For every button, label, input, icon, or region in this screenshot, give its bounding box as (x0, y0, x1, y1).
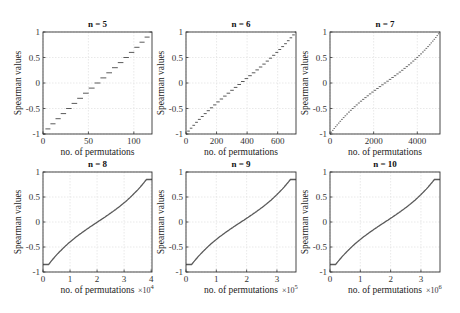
x-tick-label: 3 (419, 274, 424, 284)
x-tick-label: 3 (275, 274, 280, 284)
y-tick-label: 0 (179, 217, 184, 227)
subplot-title: n = 10 (373, 159, 397, 169)
y-axis-label: Spearman values (156, 50, 166, 115)
x-tick-label: 0 (41, 274, 46, 284)
y-tick-label: -0.5 (169, 104, 184, 114)
subplot-n10: 0123-1-0.500.51n = 10no. of permutations… (300, 159, 443, 295)
x-axis-label: no. of permutations (60, 147, 134, 157)
x-axis-label: no. of permutations (348, 147, 422, 157)
y-tick-label: 1 (179, 27, 184, 37)
subplot-n7: 020004000-1-0.500.51n = 7no. of permutat… (300, 19, 440, 157)
x-tick-label: 4000 (408, 136, 427, 146)
y-tick-label: -0.5 (26, 242, 41, 252)
x-multiplier: ×105 (282, 283, 298, 295)
y-tick-label: -1 (176, 129, 184, 139)
y-tick-label: 0 (323, 78, 328, 88)
subplot-title: n = 7 (375, 19, 395, 29)
y-tick-label: 1 (323, 167, 328, 177)
y-tick-label: 0.5 (316, 192, 328, 202)
y-axis-label: Spearman values (300, 50, 310, 115)
y-tick-label: -0.5 (169, 242, 184, 252)
y-tick-label: 1 (179, 167, 184, 177)
x-tick-label: 400 (240, 136, 254, 146)
x-tick-label: 0 (328, 136, 333, 146)
x-tick-label: 1 (358, 274, 363, 284)
y-tick-label: 0 (179, 78, 184, 88)
y-tick-label: -1 (33, 267, 41, 277)
subplot-title: n = 9 (231, 159, 251, 169)
y-tick-label: 0.5 (29, 192, 41, 202)
y-axis-label: Spearman values (13, 50, 23, 115)
x-tick-label: 1 (68, 274, 73, 284)
subplot-title: n = 8 (88, 159, 108, 169)
x-tick-label: 2 (95, 274, 100, 284)
subplot-n6: 0200400600-1-0.500.51n = 6no. of permuta… (156, 19, 296, 157)
y-tick-label: 1 (36, 167, 41, 177)
subplot-n8: 01234-1-0.500.51n = 8no. of permutations… (13, 159, 155, 295)
x-axis-label: no. of permutations (204, 285, 278, 295)
y-axis-label: Spearman values (156, 189, 166, 254)
figure: 050100-1-0.500.51n = 5no. of permutation… (0, 0, 460, 313)
x-tick-label: 0 (328, 274, 333, 284)
y-tick-label: 0.5 (172, 192, 184, 202)
x-multiplier: ×106 (426, 283, 443, 295)
y-tick-label: -0.5 (313, 242, 328, 252)
x-tick-label: 2 (244, 274, 249, 284)
subplot-title: n = 5 (88, 19, 108, 29)
y-tick-label: -1 (176, 267, 184, 277)
y-tick-label: 0 (36, 78, 41, 88)
x-tick-label: 50 (84, 136, 94, 146)
y-tick-label: -1 (320, 267, 328, 277)
y-axis-label: Spearman values (13, 189, 23, 254)
x-axis-label: no. of permutations (204, 147, 278, 157)
x-tick-label: 0 (41, 136, 46, 146)
y-axis-label: Spearman values (300, 189, 310, 254)
x-tick-label: 1 (214, 274, 219, 284)
x-tick-label: 200 (210, 136, 224, 146)
x-tick-label: 0 (184, 274, 189, 284)
y-tick-label: 1 (323, 27, 328, 37)
y-tick-label: -0.5 (313, 104, 328, 114)
x-axis-label: no. of permutations (348, 285, 422, 295)
y-tick-label: 0.5 (29, 53, 41, 63)
y-tick-label: -1 (320, 129, 328, 139)
subplot-n9: 0123-1-0.500.51n = 9no. of permutationsS… (156, 159, 298, 295)
x-tick-label: 2000 (365, 136, 384, 146)
x-tick-label: 0 (184, 136, 189, 146)
y-tick-label: 1 (36, 27, 41, 37)
x-tick-label: 3 (122, 274, 127, 284)
y-tick-label: 0.5 (172, 53, 184, 63)
y-tick-label: 0 (36, 217, 41, 227)
y-tick-label: -1 (33, 129, 41, 139)
x-tick-label: 600 (271, 136, 285, 146)
x-multiplier: ×104 (138, 283, 155, 295)
y-tick-label: -0.5 (26, 104, 41, 114)
subplot-title: n = 6 (231, 19, 251, 29)
y-tick-label: 0.5 (316, 53, 328, 63)
x-tick-label: 100 (127, 136, 141, 146)
y-tick-label: 0 (323, 217, 328, 227)
x-tick-label: 2 (388, 274, 393, 284)
subplot-n5: 050100-1-0.500.51n = 5no. of permutation… (13, 19, 152, 157)
x-axis-label: no. of permutations (60, 285, 134, 295)
